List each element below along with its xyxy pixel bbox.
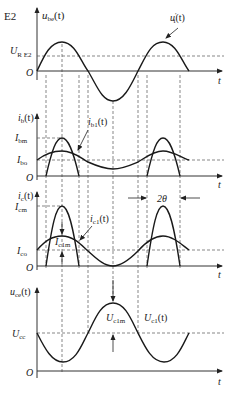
ylabel-ic: ic(t) xyxy=(18,190,33,203)
xlabel-ube: t xyxy=(218,75,221,86)
curve-pointer-ib1 xyxy=(78,130,88,150)
amplitude-label-ic1m: Ic1m xyxy=(54,236,71,249)
panel-uce: uce(t) O t Ucc Uc1m Uc1(t) xyxy=(10,280,224,387)
xlabel-ib: t xyxy=(218,179,221,190)
ib-pulse-2 xyxy=(147,138,180,176)
panel-ib: ib(t) O t Ibm Ibo ib1(t) xyxy=(14,112,224,190)
curve-label-ui: u′i(t) xyxy=(170,11,185,25)
figure-id: E2 xyxy=(4,10,16,22)
ylabel-uce: uce(t) xyxy=(10,286,31,299)
level-ico: Ico xyxy=(16,245,27,258)
origin-ube: O xyxy=(26,67,33,78)
panel-ic: ic(t) O t Icm Ico Ic1m ic1(t) 2θ xyxy=(14,190,224,280)
ylabel-ube: ube(t) xyxy=(42,9,65,23)
origin-ib: O xyxy=(26,172,33,183)
level-ibm: Ibm xyxy=(14,132,28,145)
level-ucc: Ucc xyxy=(12,328,25,341)
origin-uce: O xyxy=(26,367,33,378)
curve-label-ic1: ic1(t) xyxy=(90,213,109,226)
amplitude-label-uc1m: Uc1m xyxy=(106,312,126,325)
class-c-amplifier-waveform-diagram: E2 ube(t) O t UR E2 u′i(t) ib(t) O t Ibm… xyxy=(0,0,234,397)
level-ibo: Ibo xyxy=(16,154,28,167)
level-ure2: UR E2 xyxy=(10,45,32,59)
curve-pointer-ui xyxy=(166,28,178,38)
xlabel-uce: t xyxy=(218,376,221,387)
curve-label-uc1: Uc1(t) xyxy=(144,312,167,325)
curve-label-ib1: ib1(t) xyxy=(88,116,107,129)
ib-pulse-1 xyxy=(46,138,79,176)
panel-ube: E2 ube(t) O t UR E2 u′i(t) xyxy=(4,8,224,101)
conduction-angle-label: 2θ xyxy=(157,193,167,204)
ylabel-ib: ib(t) xyxy=(18,112,34,125)
curve-pointer-ic1 xyxy=(80,226,92,240)
origin-ic: O xyxy=(26,262,33,273)
xlabel-ic: t xyxy=(218,269,221,280)
